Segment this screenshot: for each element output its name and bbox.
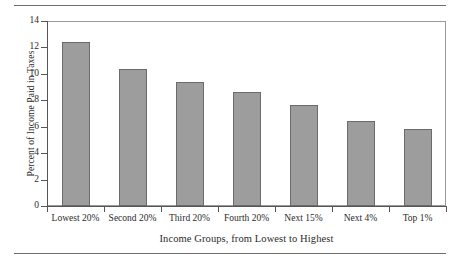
y-tick-mark xyxy=(41,100,47,101)
y-tick-label: 14 xyxy=(22,16,39,26)
chart-figure: Percent of Income Paid in Taxes 02468101… xyxy=(0,0,458,262)
y-tick-label-text: 14 xyxy=(22,16,39,26)
y-tick-label-text: 2 xyxy=(22,175,39,185)
y-tick-label-text: 10 xyxy=(22,69,39,79)
x-tick-mark xyxy=(218,207,219,212)
y-tick-label: 8 xyxy=(22,95,39,105)
x-tick-mark xyxy=(332,207,333,212)
y-tick-label-text: 0 xyxy=(22,201,39,211)
y-tick-mark xyxy=(41,47,47,48)
y-tick-mark xyxy=(41,153,47,154)
x-tick-label: Top 1% xyxy=(403,212,433,224)
x-tick-mark xyxy=(161,207,162,212)
y-axis-spine xyxy=(47,21,48,207)
x-tick-label: Next 4% xyxy=(344,212,378,224)
y-tick-label: 4 xyxy=(22,148,39,158)
y-tick-label-text: 6 xyxy=(22,122,39,132)
x-tick-mark xyxy=(47,207,48,212)
bar xyxy=(290,105,318,206)
y-tick-mark xyxy=(41,127,47,128)
bar xyxy=(347,121,375,206)
y-tick-mark xyxy=(41,21,47,22)
x-tick-label: Next 15% xyxy=(284,212,322,224)
y-tick-label: 6 xyxy=(22,122,39,132)
y-tick-label: 2 xyxy=(22,175,39,185)
x-tick-label: Third 20% xyxy=(169,212,210,224)
y-tick-label: 10 xyxy=(22,69,39,79)
bottom-horizontal-rule xyxy=(14,253,446,254)
x-axis-title: Income Groups, from Lowest to Highest xyxy=(47,232,446,245)
x-tick-label: Lowest 20% xyxy=(52,212,100,224)
bar xyxy=(404,129,432,206)
x-axis-spine xyxy=(47,206,447,207)
y-tick-label: 12 xyxy=(22,42,39,52)
bar xyxy=(119,69,147,206)
x-tick-mark xyxy=(104,207,105,212)
bar xyxy=(62,42,90,206)
y-tick-label: 0 xyxy=(22,201,39,211)
bar xyxy=(176,82,204,206)
top-horizontal-rule xyxy=(14,5,446,6)
y-tick-label-text: 8 xyxy=(22,95,39,105)
y-tick-label-text: 12 xyxy=(22,42,39,52)
bar xyxy=(233,92,261,206)
x-tick-mark xyxy=(389,207,390,212)
x-tick-label: Second 20% xyxy=(109,212,157,224)
y-tick-mark xyxy=(41,180,47,181)
x-tick-mark xyxy=(446,207,447,212)
y-tick-mark xyxy=(41,74,47,75)
y-tick-label-text: 4 xyxy=(22,148,39,158)
x-tick-mark xyxy=(275,207,276,212)
x-tick-label: Fourth 20% xyxy=(224,212,269,224)
